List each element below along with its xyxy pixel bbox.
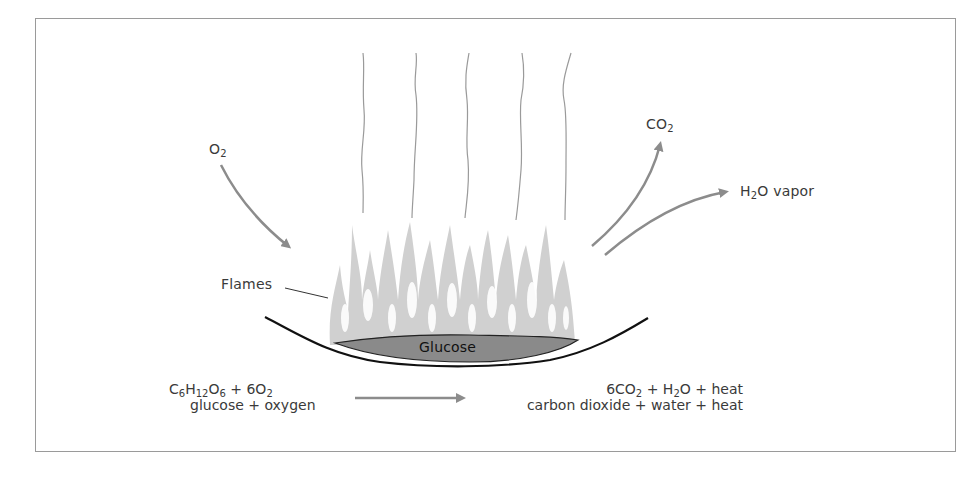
- glucose-label: Glucose: [419, 339, 476, 355]
- reactants-words: glucose + oxygen: [190, 397, 316, 414]
- oxygen-arrow: [221, 165, 288, 246]
- products-formula: 6CO2 + H2O + heat: [606, 381, 743, 398]
- h2o-arrow: [605, 192, 725, 255]
- h2o-vapor-label: H2O vapor: [740, 183, 814, 201]
- co2-label: CO2: [646, 116, 674, 134]
- combustion-illustration: [0, 0, 976, 483]
- products-words: carbon dioxide + water + heat: [527, 397, 743, 414]
- reactants-formula: C6H12O6 + 6O2: [169, 381, 273, 398]
- co2-arrow: [592, 145, 660, 246]
- heat-lines: [362, 53, 571, 220]
- flames-label: Flames: [221, 276, 272, 292]
- oxygen-label: O2: [209, 141, 227, 159]
